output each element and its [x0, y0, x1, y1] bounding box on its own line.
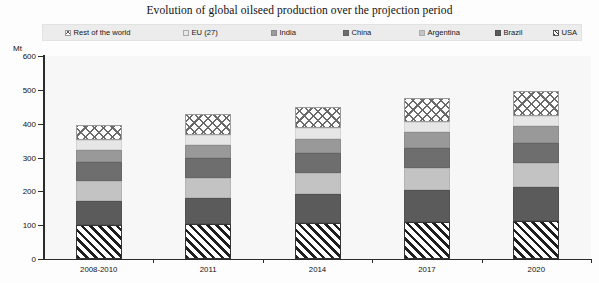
bar-segment-eu-27- [404, 122, 450, 132]
y-axis-line [43, 55, 45, 260]
bar-segment-china [185, 158, 231, 178]
crosshatch-swatch [65, 30, 71, 36]
legend-item-label: Argentina [428, 28, 461, 37]
bar-segment-argentina [404, 168, 450, 190]
y-axis-tick-label: 600 [8, 52, 36, 61]
bar-segment-india [295, 139, 341, 153]
bar-segment-rest-of-the-world [295, 107, 341, 129]
y-axis-tick-label: 300 [8, 153, 36, 162]
y-axis-tick [38, 225, 43, 226]
bar-segment-argentina [295, 173, 341, 194]
bar-segment-china [404, 148, 450, 168]
y-axis-tick-label: 100 [8, 221, 36, 230]
bar-segment-india [404, 132, 450, 147]
x-axis-tick-label: 2020 [528, 265, 545, 274]
legend-item-china[interactable]: China [343, 28, 371, 37]
mid-grey-swatch [271, 30, 277, 36]
chart-page: Evolution of global oilseed production o… [0, 0, 599, 283]
bar-segment-brazil [185, 198, 231, 224]
x-axis-tick-label: 2011 [200, 265, 217, 274]
y-axis-tick [38, 158, 43, 159]
y-axis-tick [38, 90, 43, 91]
legend-item-india[interactable]: India [271, 28, 296, 37]
bar-segment-china [295, 153, 341, 173]
bar-segment-brazil [404, 190, 450, 221]
x-axis-line [43, 259, 591, 261]
x-axis-tick [482, 259, 483, 263]
legend-item-label: Rest of the world [74, 28, 131, 37]
legend-item-label: USA [562, 28, 578, 37]
bar-segment-rest-of-the-world [76, 125, 122, 140]
legend-item-label: Brazil [504, 28, 523, 37]
bar-segment-eu-27- [185, 135, 231, 145]
bar-segment-argentina [513, 163, 559, 187]
bar-segment-brazil [295, 194, 341, 223]
bar-segment-india [185, 145, 231, 158]
bar-segment-brazil [76, 201, 122, 225]
darker-grey-swatch [495, 30, 501, 36]
legend-item-argentina[interactable]: Argentina [419, 28, 460, 37]
bar-segment-india [76, 150, 122, 162]
x-axis-tick [591, 259, 592, 263]
x-axis-tick-label: 2014 [309, 265, 326, 274]
diagonal-hatch-swatch [553, 30, 559, 36]
x-axis-tick-label: 2008-2010 [80, 265, 117, 274]
bar-segment-china [513, 143, 559, 164]
y-axis-tick-label: 200 [8, 187, 36, 196]
bar-segment-eu-27- [295, 128, 341, 138]
bar-segment-brazil [513, 187, 559, 221]
y-axis-tick-label: 500 [8, 85, 36, 94]
bar-segment-eu-27- [513, 116, 559, 127]
x-axis-tick-label: 2017 [418, 265, 435, 274]
bar-segment-india [513, 126, 559, 142]
legend-item-label: EU (27) [192, 28, 218, 37]
x-axis-tick [372, 259, 373, 263]
bar-segment-argentina [76, 181, 122, 201]
pale-grey-swatch [419, 30, 425, 36]
bar-segment-usa [513, 221, 559, 259]
legend-item-usa[interactable]: USA [553, 28, 577, 37]
bar-segment-usa [295, 223, 341, 259]
x-axis-tick [153, 259, 154, 263]
legend-item-eu[interactable]: EU (27) [183, 28, 218, 37]
bar-segment-china [76, 162, 122, 181]
plot-area [44, 56, 591, 259]
chart-legend: Rest of the worldEU (27)IndiaChinaArgent… [42, 24, 582, 41]
legend-item-label: China [352, 28, 372, 37]
legend-item-brazil[interactable]: Brazil [495, 28, 523, 37]
y-axis-tick [38, 259, 43, 260]
legend-item-row[interactable]: Rest of the world [65, 28, 130, 37]
x-axis-tick [263, 259, 264, 263]
dark-grey-swatch [343, 30, 349, 36]
bar-segment-rest-of-the-world [185, 114, 231, 136]
y-axis-tick [38, 124, 43, 125]
y-axis-tick-label: 400 [8, 119, 36, 128]
bar-segment-usa [185, 224, 231, 259]
bar-segment-rest-of-the-world [404, 98, 450, 122]
y-axis-tick [38, 191, 43, 192]
chart-title: Evolution of global oilseed production o… [0, 4, 599, 16]
bar-segment-rest-of-the-world [513, 91, 559, 116]
bar-segment-usa [76, 225, 122, 259]
light-grey-swatch [183, 30, 189, 36]
y-axis-tick [38, 56, 43, 57]
bar-segment-usa [404, 222, 450, 259]
bar-segment-eu-27- [76, 140, 122, 149]
legend-item-label: India [280, 28, 296, 37]
y-axis-tick-label: 0 [8, 255, 36, 264]
bar-segment-argentina [185, 178, 231, 198]
